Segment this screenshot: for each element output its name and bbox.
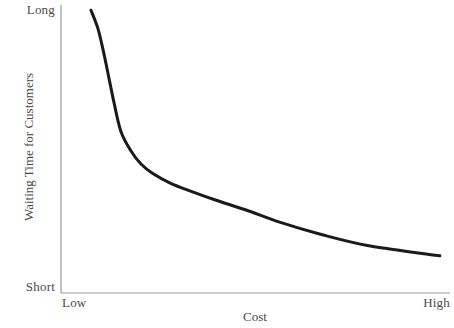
y-axis-title: Waiting Time for Customers bbox=[22, 32, 36, 262]
x-axis-tip-label-high: High bbox=[0, 296, 450, 310]
chart-figure: Long Short Low High Cost Waiting Time fo… bbox=[0, 0, 454, 328]
y-axis-tip-label-low: Short bbox=[0, 280, 55, 294]
y-axis-tip-label-high: Long bbox=[0, 3, 55, 17]
x-axis-title: Cost bbox=[60, 310, 450, 324]
plot-canvas bbox=[0, 0, 454, 328]
data-curve-waiting-time bbox=[91, 10, 440, 256]
